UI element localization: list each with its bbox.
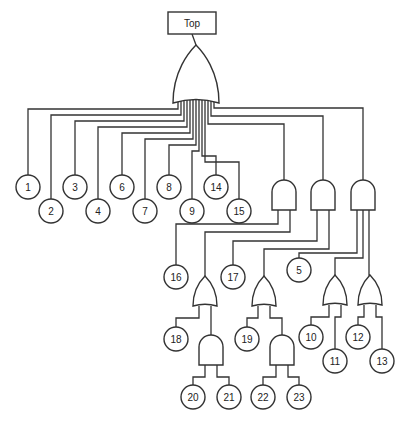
or-gate[interactable] <box>173 45 219 103</box>
or-gate[interactable] <box>193 276 217 306</box>
basic-event-9[interactable]: 9 <box>180 199 204 223</box>
basic-event-11[interactable]: 11 <box>323 349 347 373</box>
and-gate[interactable] <box>272 180 296 210</box>
event-label: 18 <box>170 334 182 345</box>
event-label: 2 <box>48 206 54 217</box>
event-label: 17 <box>227 272 239 283</box>
basic-event-20[interactable]: 20 <box>181 385 205 409</box>
event-label: 19 <box>241 334 253 345</box>
basic-event-16[interactable]: 16 <box>164 265 188 289</box>
top-event-label: Top <box>184 18 201 29</box>
basic-event-6[interactable]: 6 <box>110 175 134 199</box>
basic-event-23[interactable]: 23 <box>287 385 311 409</box>
basic-event-10[interactable]: 10 <box>299 325 323 349</box>
basic-event-18[interactable]: 18 <box>164 327 188 351</box>
basic-event-4[interactable]: 4 <box>86 199 110 223</box>
basic-event-22[interactable]: 22 <box>251 385 275 409</box>
event-label: 14 <box>210 182 222 193</box>
basic-event-3[interactable]: 3 <box>63 175 87 199</box>
basic-event-13[interactable]: 13 <box>370 349 394 373</box>
event-label: 3 <box>72 182 78 193</box>
event-label: 5 <box>296 265 302 276</box>
basic-event-12[interactable]: 12 <box>346 325 370 349</box>
basic-event-15[interactable]: 15 <box>227 199 251 223</box>
or-gate[interactable] <box>252 276 276 306</box>
event-label: 20 <box>187 392 199 403</box>
and-gate[interactable] <box>351 180 375 210</box>
event-label: 8 <box>166 182 172 193</box>
basic-event-17[interactable]: 17 <box>221 265 245 289</box>
basic-event-1[interactable]: 1 <box>16 175 40 199</box>
basic-event-5[interactable]: 5 <box>287 258 311 282</box>
event-label: 7 <box>142 206 148 217</box>
basic-event-7[interactable]: 7 <box>133 199 157 223</box>
event-label: 1 <box>25 182 31 193</box>
top-event[interactable]: Top <box>168 12 216 34</box>
basic-event-2[interactable]: 2 <box>39 199 63 223</box>
event-label: 4 <box>95 206 101 217</box>
basic-event-21[interactable]: 21 <box>217 385 241 409</box>
basic-event-14[interactable]: 14 <box>204 175 228 199</box>
event-label: 9 <box>189 206 195 217</box>
event-label: 6 <box>119 182 125 193</box>
event-label: 15 <box>233 206 245 217</box>
event-label: 23 <box>293 392 305 403</box>
event-label: 22 <box>257 392 269 403</box>
fault-tree-diagram: 1234678914151617518191011121320212223 To… <box>0 0 411 424</box>
event-label: 12 <box>352 332 364 343</box>
logic-gates <box>173 45 382 365</box>
event-label: 11 <box>330 356 341 367</box>
or-gate[interactable] <box>358 275 382 305</box>
event-label: 16 <box>170 272 182 283</box>
and-gate[interactable] <box>199 335 223 365</box>
event-label: 13 <box>376 356 388 367</box>
or-gate[interactable] <box>323 275 347 305</box>
basic-event-19[interactable]: 19 <box>235 327 259 351</box>
and-gate[interactable] <box>311 180 335 210</box>
and-gate[interactable] <box>270 335 294 365</box>
event-label: 10 <box>305 332 317 343</box>
event-label: 21 <box>223 392 235 403</box>
basic-event-8[interactable]: 8 <box>157 175 181 199</box>
